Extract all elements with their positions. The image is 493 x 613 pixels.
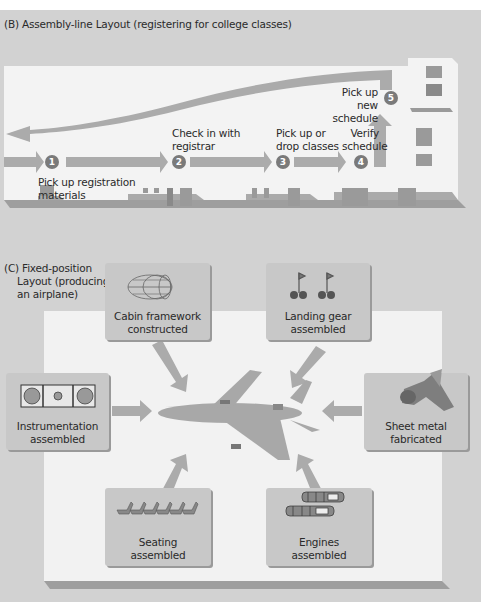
station-sheet-metal: Sheet metalfabricated [364,373,468,450]
section-b-title: (B) Assembly-line Layout (registering fo… [4,18,292,30]
step-4-badge: 4 [354,155,368,169]
station-cabin-label: Cabin frameworkconstructed [105,310,210,336]
step-1-label: Pick up registrationmaterials [38,176,135,202]
step-1-badge: 1 [45,155,59,169]
section-c-title: (C) Fixed-position Layout (producing an … [4,262,109,301]
station-cabin: Cabin frameworkconstructed [105,263,210,340]
seats-icon [105,488,211,533]
station-engines: Enginesassembled [266,488,372,566]
diagram-graphics [0,0,493,613]
step-2-badge: 2 [172,155,186,169]
step-2-label: Check in withregistrar [172,127,240,153]
station-instrumentation-label: Instrumentationassembled [6,420,109,446]
step-3-label: Pick up ordrop classes [276,127,339,153]
step-5-label: Pick up newschedule [322,86,378,125]
station-sheet-metal-label: Sheet metalfabricated [364,420,468,446]
step-4-label: Verifyschedule [342,127,387,153]
station-engines-label: Enginesassembled [266,536,372,562]
station-seating-label: Seatingassembled [105,536,211,562]
station-seating: Seatingassembled [105,488,211,566]
step-5-badge: 5 [384,91,398,105]
engines-icon [266,488,372,533]
step-3-badge: 3 [276,155,290,169]
station-landing-gear-label: Landing gearassembled [266,310,370,336]
station-instrumentation: Instrumentationassembled [6,373,109,450]
station-landing-gear: Landing gearassembled [266,263,370,340]
landing-gear-icon [266,263,370,308]
cabin-frame-icon [105,263,210,308]
instrument-panel-icon [6,373,109,418]
sheet-metal-icon [364,359,482,419]
